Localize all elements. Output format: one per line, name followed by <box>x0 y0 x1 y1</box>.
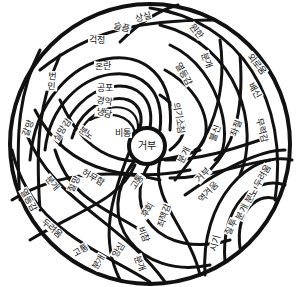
emotion-label: 걱정 <box>88 35 106 45</box>
emotion-swirl-diagram: 상실 슬픔 원한 걱정 분개 혼란 열등감 외로움 배신 번민 공포 경악 냉담… <box>0 0 301 287</box>
emotion-label: 혼란 <box>94 61 112 71</box>
emotion-label: 공포 <box>96 83 114 93</box>
emotion-label: 비통 <box>114 128 132 138</box>
center-label: 거부 <box>137 141 157 151</box>
emotion-label: 번민 <box>45 71 59 92</box>
